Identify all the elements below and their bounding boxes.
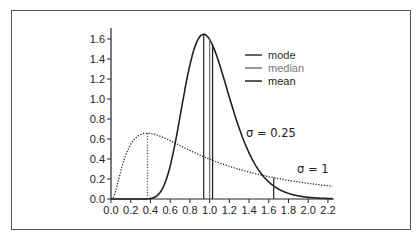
x-tick-label: 1.4 [241,204,256,216]
x-tick-label: 0.2 [123,204,138,216]
x-tick-label: 0.4 [143,204,158,216]
legend: mode median mean [245,49,304,87]
y-tick-label: 1.0 [90,93,105,105]
x-tick-label: 2.2 [320,204,335,216]
legend-median-label: median [268,62,304,74]
x-tick-label: 1.6 [261,204,276,216]
x-tick-label: 2.0 [301,204,316,216]
x-tick-label: 0.6 [163,204,178,216]
x-tick-label: 0.0 [103,204,118,216]
annotation-sigma-1: σ = 1 [297,162,329,176]
y-tick-label: 1.6 [90,33,105,45]
y-tick-label: 0.8 [90,113,105,125]
y-tick-label: 0.2 [90,173,105,185]
y-tick-label: 0.6 [90,133,105,145]
annotation-sigma-025: σ = 0.25 [246,126,296,140]
y-tick-label: 1.2 [90,73,105,85]
x-tick-label: 0.8 [182,204,197,216]
x-tick-label: 1.0 [202,204,217,216]
x-tick-label: 1.8 [281,204,296,216]
y-tick-label: 1.4 [90,53,105,65]
legend-mode-label: mode [268,49,296,61]
legend-mean-label: mean [268,75,296,87]
x-tick-label: 1.2 [222,204,237,216]
lognormal-chart: 0.00.20.40.60.81.01.21.41.60.00.20.40.60… [0,0,419,242]
y-tick-label: 0.4 [90,153,105,165]
